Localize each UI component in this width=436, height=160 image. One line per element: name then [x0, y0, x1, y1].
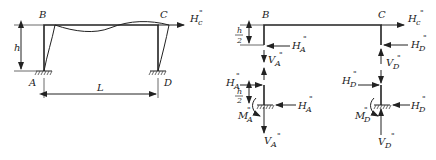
fixed-support-A — [35, 71, 52, 75]
svg-text:A: A — [246, 115, 253, 124]
svg-text:A: A — [270, 140, 277, 149]
label-VD: V D " — [386, 53, 401, 71]
svg-text:": " — [199, 8, 203, 17]
deflected-shape — [44, 22, 169, 71]
frame-members — [44, 25, 158, 71]
label-L: L — [96, 82, 104, 93]
svg-text:": " — [422, 94, 426, 103]
fixed-support-D — [149, 71, 166, 75]
label-MA: M A " — [237, 105, 253, 124]
label-B: B — [38, 9, 46, 20]
svg-text:D: D — [363, 115, 371, 124]
svg-text:D: D — [349, 80, 357, 89]
label-h-over-2-bottom: h 2 — [235, 87, 243, 105]
svg-text:D: D — [384, 141, 392, 150]
label-C: C — [160, 9, 168, 20]
label-C-right: C — [378, 9, 386, 20]
upper-frame-member — [264, 25, 381, 45]
svg-text:": " — [236, 71, 240, 80]
label-Hc-right: H c " — [407, 8, 424, 27]
svg-text:A: A — [305, 105, 312, 114]
label-h-over-2-top: h 2 — [235, 26, 243, 45]
moment-MD-arrow — [371, 98, 378, 116]
svg-text:D: D — [418, 44, 426, 53]
label-HA-support: H A " — [297, 94, 313, 114]
svg-text:": " — [423, 33, 427, 42]
label-MD: M D " — [354, 105, 371, 124]
label-VA: V A " — [268, 50, 283, 68]
label-B-right: B — [261, 9, 269, 20]
portal-frame-diagram: h L B C A D H c " B C H c " — [0, 0, 436, 160]
deformed-frame: h L B C A D H c " — [14, 8, 203, 98]
svg-text:": " — [247, 105, 251, 114]
svg-text:": " — [397, 53, 401, 62]
svg-text:": " — [279, 50, 283, 59]
svg-text:A: A — [274, 59, 281, 68]
svg-text:": " — [353, 69, 357, 78]
svg-text:D: D — [418, 105, 426, 114]
label-A: A — [28, 77, 36, 88]
svg-text:": " — [391, 131, 395, 140]
svg-text:": " — [364, 105, 368, 114]
label-h: h — [14, 42, 20, 53]
label-D: D — [163, 77, 172, 88]
svg-text:": " — [309, 94, 313, 103]
free-body-diagrams: B C H c " h 2 H A " V A " — [225, 8, 427, 150]
moment-MA-arrow — [253, 98, 260, 116]
svg-text:c: c — [416, 18, 421, 27]
svg-text:": " — [303, 34, 307, 43]
svg-text:2: 2 — [236, 96, 242, 105]
svg-text:D: D — [392, 62, 400, 71]
label-HD-lower-left: H D " — [341, 69, 357, 89]
svg-text:c: c — [198, 18, 203, 27]
label-Hc: H c " — [189, 8, 203, 27]
svg-text:": " — [277, 131, 281, 140]
svg-text:A: A — [299, 45, 306, 54]
svg-text:": " — [420, 8, 424, 17]
label-HA-top: H A " — [291, 34, 307, 54]
svg-text:h: h — [237, 87, 242, 96]
fixed-support-D-right — [374, 105, 391, 109]
svg-text:h: h — [237, 26, 242, 35]
fixed-support-A-right — [257, 105, 274, 109]
svg-text:2: 2 — [236, 36, 242, 45]
label-HD-support: H D " — [410, 94, 426, 114]
label-VA-reaction: V A " — [264, 131, 281, 149]
label-HD-top: H D " — [410, 33, 427, 53]
